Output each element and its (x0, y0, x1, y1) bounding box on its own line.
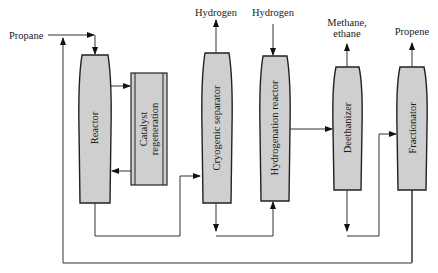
hydrogenation-reactor-label: Hydrogenation reactor (269, 80, 280, 175)
process-flow-diagram: Propane Reactor Catalyst regeneration Cr… (0, 0, 438, 273)
stream-label-ethane: ethane (333, 28, 361, 39)
catalyst-label-line2: regeneration (149, 102, 160, 155)
catalyst-label-line1: Catalyst (138, 112, 149, 146)
stream-label-propene: Propene (395, 26, 430, 37)
fractionator-label: Fractionator (407, 102, 418, 154)
stream-label-propane: Propane (9, 30, 44, 41)
stream-label-hydrogen-out: Hydrogen (195, 7, 238, 18)
stream-label-methane: Methane, (327, 17, 366, 28)
cryogenic-to-hydrogenation-line (216, 202, 273, 236)
stream-label-hydrogen-in: Hydrogen (252, 7, 295, 18)
cryogenic-separator-label: Cryogenic separator (211, 85, 222, 170)
reactor-label: Reactor (89, 111, 100, 144)
deethanizer-label: Deethanizer (342, 102, 353, 153)
